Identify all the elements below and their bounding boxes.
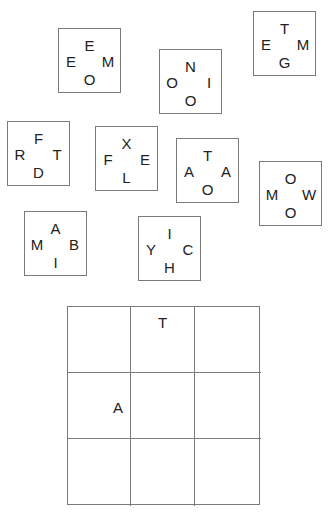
tile-letter-bottom: O [283, 205, 299, 220]
cell-letter-right: A [110, 400, 126, 415]
tile-letter-right: C [180, 242, 196, 257]
board-cell-r2-c2[interactable] [195, 439, 261, 506]
tile-piece-4[interactable]: F R T D [7, 121, 70, 186]
board-cell-r2-c1[interactable] [131, 439, 195, 506]
board-cell-r0-c0[interactable] [68, 307, 131, 373]
board-cell-r2-c0[interactable] [68, 439, 131, 506]
tile-letter-top: N [183, 59, 199, 74]
tile-letter-top: E [82, 38, 98, 53]
tile-letter-bottom: I [48, 255, 64, 270]
tile-letter-right: M [100, 54, 116, 69]
tile-letter-bottom: O [183, 93, 199, 108]
cell-letter-top: T [155, 315, 171, 330]
tile-letter-left: Y [143, 242, 159, 257]
tile-letter-bottom: G [277, 55, 293, 70]
tile-piece-3[interactable]: T E M G [253, 11, 316, 76]
tile-letter-right: M [295, 37, 311, 52]
tile-letter-top: O [283, 171, 299, 186]
tile-piece-1[interactable]: E E M O [58, 28, 121, 93]
tile-letter-right: E [137, 152, 153, 167]
tile-letter-top: A [48, 221, 64, 236]
tile-letter-top: I [162, 226, 178, 241]
tile-letter-top: F [31, 131, 47, 146]
tile-letter-right: B [66, 237, 82, 252]
board-cell-r0-c1[interactable]: T [131, 307, 195, 373]
tile-piece-5[interactable]: X F E L [95, 126, 158, 191]
tile-letter-bottom: L [119, 170, 135, 185]
tile-letter-left: E [258, 37, 274, 52]
tile-letter-bottom: O [200, 182, 216, 197]
tile-letter-top: T [200, 148, 216, 163]
tile-piece-9[interactable]: I Y C H [138, 216, 201, 281]
tile-piece-7[interactable]: O M W O [259, 161, 322, 226]
tile-letter-left: R [12, 147, 28, 162]
tile-letter-top: X [119, 136, 135, 151]
tile-letter-right: T [49, 147, 65, 162]
board-cell-r1-c1[interactable] [131, 373, 195, 439]
tile-piece-6[interactable]: T A A O [176, 138, 239, 203]
tile-letter-right: W [301, 187, 317, 202]
tile-piece-2[interactable]: N O I O [159, 49, 222, 114]
tile-letter-left: M [29, 237, 45, 252]
tile-letter-top: T [277, 21, 293, 36]
puzzle-board: T A [67, 306, 260, 505]
tile-letter-bottom: D [31, 165, 47, 180]
tile-letter-bottom: O [82, 72, 98, 87]
tile-letter-left: F [100, 152, 116, 167]
tile-piece-8[interactable]: A M B I [24, 211, 87, 276]
tile-letter-left: M [264, 187, 280, 202]
tile-letter-right: I [201, 75, 217, 90]
board-cell-r0-c2[interactable] [195, 307, 261, 373]
board-cell-r1-c2[interactable] [195, 373, 261, 439]
board-cell-r1-c0[interactable]: A [68, 373, 131, 439]
tile-letter-left: O [164, 75, 180, 90]
tile-letter-left: A [181, 164, 197, 179]
tile-letter-left: E [63, 54, 79, 69]
tile-letter-bottom: H [162, 260, 178, 275]
tile-letter-right: A [218, 164, 234, 179]
